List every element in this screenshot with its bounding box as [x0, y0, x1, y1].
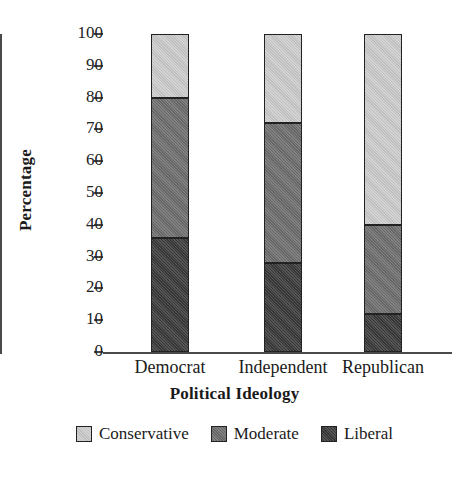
y-tick-label: 80 [59, 90, 103, 104]
bar-democrat[interactable] [151, 34, 189, 352]
segment-democrat-liberal[interactable] [151, 238, 189, 352]
y-tick-label: 40 [59, 217, 103, 231]
y-tick-label: 90 [59, 58, 103, 72]
legend-item-conservative[interactable]: Conservative [76, 424, 189, 444]
y-tick-label: 70 [59, 121, 103, 135]
x-axis-line [103, 352, 452, 354]
segment-republican-moderate[interactable] [364, 225, 402, 314]
legend-label-moderate: Moderate [234, 424, 299, 444]
chart-legend: ConservativeModerateLiberal [0, 424, 469, 444]
segment-democrat-moderate[interactable] [151, 98, 189, 238]
y-tick-label: 20 [59, 280, 103, 294]
legend-label-liberal: Liberal [344, 424, 393, 444]
y-axis-ticks: 1009080706050403020100 [0, 0, 103, 478]
plot-area [103, 34, 452, 352]
y-tick-label: 0 [59, 344, 103, 358]
y-tick-label: 30 [59, 249, 103, 263]
bar-independent[interactable] [264, 34, 302, 352]
segment-republican-liberal[interactable] [364, 314, 402, 352]
y-tick-label: 100 [59, 26, 103, 40]
segment-republican-conservative[interactable] [364, 34, 402, 225]
segment-independent-conservative[interactable] [264, 34, 302, 123]
y-tick-label: 50 [59, 185, 103, 199]
legend-swatch-liberal [321, 426, 337, 442]
y-tick-label: 60 [59, 153, 103, 167]
legend-swatch-conservative [76, 426, 92, 442]
segment-independent-moderate[interactable] [264, 123, 302, 263]
y-tick-label: 10 [59, 312, 103, 326]
segment-democrat-conservative[interactable] [151, 34, 189, 98]
stacked-bar-chart: Percentage 1009080706050403020100 Democr… [0, 0, 469, 478]
x-axis-title: Political Ideology [0, 384, 469, 404]
bar-republican[interactable] [364, 34, 402, 352]
segment-independent-liberal[interactable] [264, 263, 302, 352]
category-label-republican: Republican [313, 357, 453, 378]
legend-label-conservative: Conservative [99, 424, 189, 444]
legend-item-liberal[interactable]: Liberal [321, 424, 393, 444]
legend-item-moderate[interactable]: Moderate [211, 424, 299, 444]
legend-swatch-moderate [211, 426, 227, 442]
